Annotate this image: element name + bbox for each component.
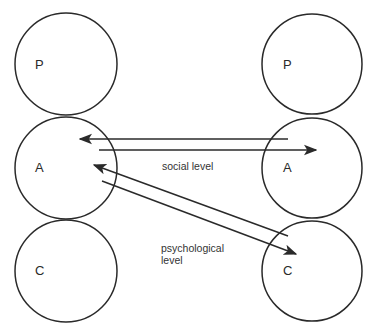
right-adult-label: A: [283, 160, 292, 175]
right-person: P A C: [262, 14, 362, 321]
right-child-label: C: [283, 263, 292, 278]
psychological-arrow-to-left-adult: [94, 165, 288, 236]
psychological-level-label-line1: psychological: [161, 242, 224, 254]
left-adult-label: A: [35, 160, 44, 175]
psychological-level-label-line2: level: [161, 254, 183, 266]
right-adult-circle: [262, 118, 362, 218]
right-child-circle: [262, 221, 362, 321]
right-parent-circle: [262, 14, 362, 114]
left-child-circle: [15, 220, 117, 322]
left-parent-label: P: [35, 57, 44, 72]
social-level-label: social level: [162, 160, 213, 172]
ta-diagram: P A C P A C social level psychological l…: [0, 0, 374, 334]
right-parent-label: P: [283, 57, 292, 72]
left-parent-circle: [15, 13, 117, 115]
left-child-label: C: [35, 263, 44, 278]
